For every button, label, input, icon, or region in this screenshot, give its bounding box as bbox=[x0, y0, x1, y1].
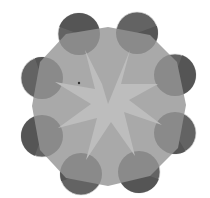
circle-overlap-top-left bbox=[58, 13, 100, 55]
rosette-diagram bbox=[0, 0, 210, 198]
rosette-svg bbox=[0, 0, 210, 198]
circle-overlap-right-lower bbox=[154, 112, 196, 154]
circle-overlap-bottom-left bbox=[60, 153, 102, 195]
circle-overlap-right-upper bbox=[154, 54, 196, 96]
dot-marker bbox=[78, 82, 80, 84]
circle-overlap-bottom-right bbox=[118, 151, 160, 193]
circle-overlap-top-right bbox=[116, 12, 158, 54]
circle-overlap-left-upper bbox=[21, 57, 63, 99]
circle-overlap-left-lower bbox=[21, 115, 63, 157]
